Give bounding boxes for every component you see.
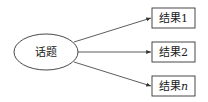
result-node-2: 结果2: [152, 42, 195, 62]
result-node-1: 结果1: [152, 8, 195, 28]
topic-node: 话题: [14, 34, 78, 70]
result-node-n: 结果n: [152, 76, 195, 96]
result-n-label: 结果n: [159, 80, 188, 93]
topic-label: 话题: [35, 46, 57, 59]
arrow-to-result-n: [74, 62, 151, 86]
result-1-label: 结果1: [159, 12, 188, 25]
topic-results-diagram: 话题 结果1 结果2 结果n: [0, 0, 208, 102]
result-2-label: 结果2: [159, 46, 188, 59]
arrow-to-result-1: [74, 18, 151, 42]
